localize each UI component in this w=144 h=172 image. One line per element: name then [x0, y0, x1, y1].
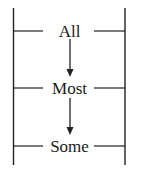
arrow-most-to-some-icon [67, 98, 74, 135]
level-some: Some [14, 137, 126, 156]
level-all-label: All [59, 22, 81, 41]
level-some-label: Some [50, 137, 89, 156]
level-most-label: Most [52, 79, 87, 98]
quantifier-ladder-diagram: All Most Some [0, 0, 144, 172]
arrow-all-to-most-icon [67, 39, 74, 77]
level-all: All [14, 22, 126, 41]
level-most: Most [14, 79, 126, 98]
